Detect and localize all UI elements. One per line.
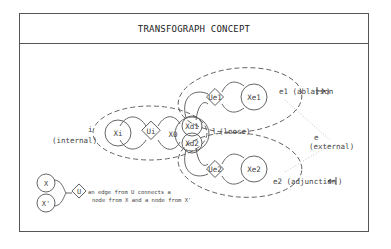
node-xd1-label: Xd1	[185, 122, 199, 131]
node-xd2-label: Xd2	[185, 139, 199, 148]
node-ue1-label: Ue1	[208, 93, 222, 102]
node-xe1-label: Xe1	[247, 93, 261, 102]
loose-label: (loose)	[219, 127, 251, 136]
legend-edge-u-label: U	[77, 188, 81, 196]
e1-label-end: )	[326, 87, 331, 96]
internal-label: (internal)	[52, 136, 97, 145]
legend-node-x-prime-label: X'	[42, 200, 50, 208]
node-x0-label: X0	[168, 130, 178, 139]
legend-line-2: node from X and a node from X'	[92, 197, 191, 203]
loose-letter: l	[212, 127, 217, 136]
legend-node-x-label: X	[44, 180, 49, 188]
legend-line-1: an edge from U connects a	[88, 189, 171, 196]
node-xi-label: Xi	[113, 129, 122, 138]
external-label: (external)	[309, 142, 354, 151]
node-ue2-label: Ue2	[208, 165, 222, 174]
e2-label-end: )	[338, 177, 343, 186]
e2-label: e2 (adjunction	[273, 177, 336, 186]
legend-edge-curves	[54, 180, 72, 206]
internal-letter: i	[88, 125, 93, 134]
edge-xd1-ue1	[185, 92, 208, 120]
node-ui-label: Ui	[146, 127, 155, 136]
node-xe2-label: Xe2	[247, 165, 261, 174]
external-letter: e	[314, 133, 319, 142]
external-connector-top	[285, 100, 330, 140]
transfograph-diagram: Xi Ui X0 Xd1 Xd2 Ue1 Xe1 Ue2 Xe2 i (inte…	[0, 0, 391, 249]
